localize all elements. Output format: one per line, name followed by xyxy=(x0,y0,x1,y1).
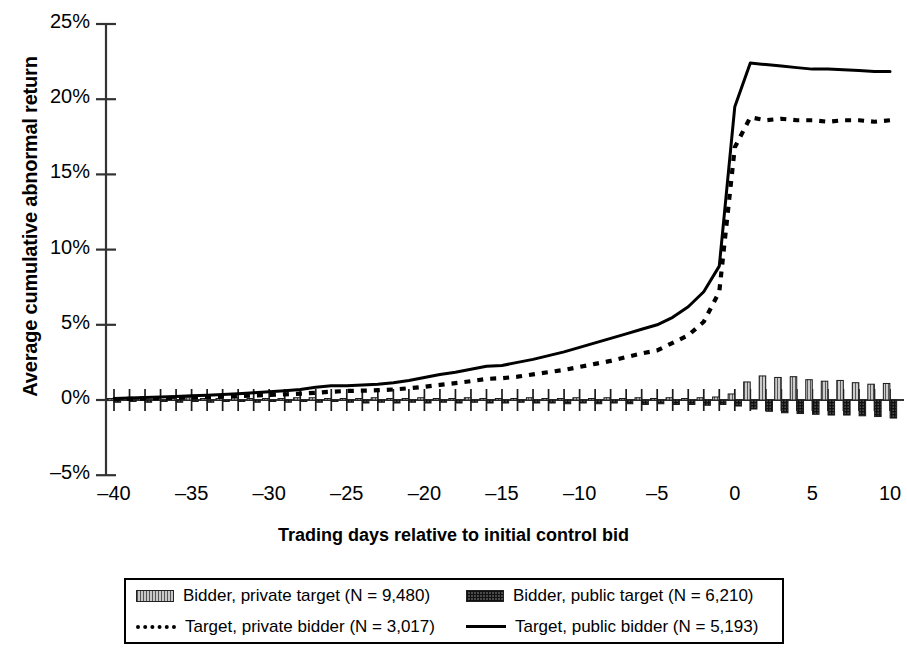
x-tick-label: –25 xyxy=(317,482,377,505)
x-tick-label: –35 xyxy=(162,482,222,505)
legend-label: Bidder, private target (N = 9,480) xyxy=(183,586,430,606)
x-tick-label: –30 xyxy=(239,482,299,505)
x-axis-title: Trading days relative to initial control… xyxy=(0,525,907,546)
x-tick-label: –40 xyxy=(84,482,144,505)
legend-item-target-private-bidder: Target, private bidder (N = 3,017) xyxy=(136,617,466,637)
x-tick-label: 10 xyxy=(860,482,907,505)
legend-label: Target, public bidder (N = 5,193) xyxy=(515,617,758,637)
x-tick-label: –5 xyxy=(627,482,687,505)
x-tick-label: 0 xyxy=(705,482,765,505)
dark-hatched-swatch-icon xyxy=(466,590,504,602)
y-tick-label: –5% xyxy=(20,461,90,484)
y-tick-label: 15% xyxy=(20,160,90,183)
chart-figure: Average cumulative abnormal return Tradi… xyxy=(0,0,907,672)
x-tick-label: –10 xyxy=(550,482,610,505)
legend-item-bidder-public-target: Bidder, public target (N = 6,210) xyxy=(466,586,796,606)
legend-item-bidder-private-target: Bidder, private target (N = 9,480) xyxy=(136,586,466,606)
y-tick-label: 10% xyxy=(20,236,90,259)
legend-label: Bidder, public target (N = 6,210) xyxy=(513,586,754,606)
y-tick-label: 20% xyxy=(20,85,90,108)
legend-item-target-public-bidder: Target, public bidder (N = 5,193) xyxy=(466,617,796,637)
dashed-line-swatch-icon xyxy=(136,625,176,629)
y-tick-label: 5% xyxy=(20,311,90,334)
light-hatched-swatch-icon xyxy=(136,590,174,602)
x-tick-label: –20 xyxy=(394,482,454,505)
legend-label: Target, private bidder (N = 3,017) xyxy=(185,617,435,637)
y-tick-label: 25% xyxy=(20,10,90,33)
x-tick-label: –15 xyxy=(472,482,532,505)
solid-line-swatch-icon xyxy=(466,625,506,628)
chart-legend: Bidder, private target (N = 9,480) Bidde… xyxy=(124,578,784,644)
y-tick-label: 0% xyxy=(20,386,90,409)
plot-area xyxy=(0,0,907,672)
x-tick-label: 5 xyxy=(782,482,842,505)
